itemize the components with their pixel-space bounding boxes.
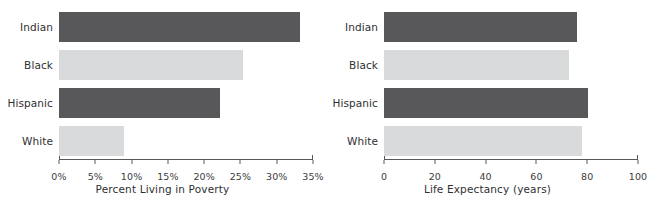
bar-white[interactable] xyxy=(59,126,124,156)
bar-row: Indian xyxy=(59,12,313,42)
x-tick-label: 10% xyxy=(121,171,142,182)
x-tick-label: 35% xyxy=(302,171,323,182)
x-tick-label: 80 xyxy=(581,171,593,182)
x-tick-label: 40 xyxy=(479,171,491,182)
x-axis-label-poverty: Percent Living in Poverty xyxy=(0,183,325,195)
x-tick xyxy=(95,160,96,164)
bar-row: White xyxy=(59,126,313,156)
x-tick xyxy=(131,160,132,164)
category-label-white: White xyxy=(0,135,53,147)
category-label-white: White xyxy=(322,135,378,147)
x-tick-label: 20% xyxy=(193,171,214,182)
category-label-hispanic: Hispanic xyxy=(0,97,53,109)
x-tick-label: 25% xyxy=(230,171,251,182)
x-tick xyxy=(638,160,639,164)
x-tick xyxy=(313,160,314,164)
chart-panel-poverty: 0%5%10%15%20%25%30%35%IndianBlackHispani… xyxy=(0,0,325,214)
x-tick-label: 60 xyxy=(530,171,542,182)
bar-black[interactable] xyxy=(384,50,569,80)
bar-row: Indian xyxy=(384,12,638,42)
x-tick-label: 0% xyxy=(51,171,66,182)
category-label-black: Black xyxy=(322,59,378,71)
bar-row: Hispanic xyxy=(384,88,638,118)
figure-two-bar-charts: 0%5%10%15%20%25%30%35%IndianBlackHispani… xyxy=(0,0,650,214)
bar-hispanic[interactable] xyxy=(59,88,220,118)
bar-indian[interactable] xyxy=(59,12,300,42)
x-tick xyxy=(384,160,385,164)
bar-white[interactable] xyxy=(384,126,582,156)
x-tick xyxy=(587,160,588,164)
bar-row: Black xyxy=(384,50,638,80)
category-label-hispanic: Hispanic xyxy=(322,97,378,109)
x-tick xyxy=(167,160,168,164)
x-tick-label: 30% xyxy=(266,171,287,182)
x-tick-label: 100 xyxy=(629,171,647,182)
x-tick xyxy=(434,160,435,164)
x-tick xyxy=(276,160,277,164)
x-tick xyxy=(204,160,205,164)
x-tick xyxy=(536,160,537,164)
category-label-black: Black xyxy=(0,59,53,71)
x-tick-label: 5% xyxy=(88,171,103,182)
x-tick-label: 0 xyxy=(381,171,387,182)
plot-area-life-expectancy: 020406080100IndianBlackHispanicWhite xyxy=(384,8,638,160)
bar-black[interactable] xyxy=(59,50,243,80)
bar-hispanic[interactable] xyxy=(384,88,588,118)
x-axis-line xyxy=(59,159,313,160)
x-tick-label: 20 xyxy=(429,171,441,182)
chart-panel-life-expectancy: 020406080100IndianBlackHispanicWhite Lif… xyxy=(325,0,650,214)
bar-row: Black xyxy=(59,50,313,80)
bar-row: White xyxy=(384,126,638,156)
x-tick xyxy=(59,160,60,164)
x-tick xyxy=(240,160,241,164)
x-tick xyxy=(485,160,486,164)
plot-area-poverty: 0%5%10%15%20%25%30%35%IndianBlackHispani… xyxy=(59,8,313,160)
category-label-indian: Indian xyxy=(322,21,378,33)
bar-indian[interactable] xyxy=(384,12,577,42)
x-tick-label: 15% xyxy=(157,171,178,182)
x-axis-label-life-expectancy: Life Expectancy (years) xyxy=(325,183,650,195)
category-label-indian: Indian xyxy=(0,21,53,33)
bar-row: Hispanic xyxy=(59,88,313,118)
x-axis-line xyxy=(384,159,638,160)
